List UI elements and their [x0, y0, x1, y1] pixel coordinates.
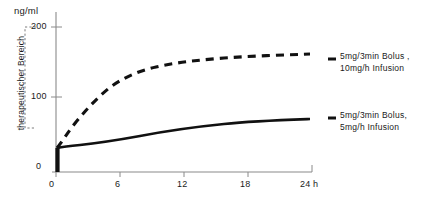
- series-label-5mg-line1: 5mg/3min Bolus,: [340, 110, 407, 122]
- x-tick-label-12: 12: [177, 180, 187, 189]
- chart-plot-area: [0, 0, 423, 199]
- series-line-5mg: [57, 119, 310, 148]
- series-label-10mg-line1: 5mg/3min Bolus ,: [340, 51, 410, 63]
- series-label-10mg-line2: 10mg/h Infusion: [340, 63, 410, 75]
- x-tick-label-18: 18: [240, 180, 250, 189]
- x-tick-label-6: 6: [115, 180, 120, 189]
- series-label-10mg: 5mg/3min Bolus , 10mg/h Infusion: [340, 51, 410, 74]
- y-tick-label-200: 200: [31, 22, 47, 31]
- y-tick-label-100: 100: [31, 92, 47, 101]
- y-axis-unit-label: ng/ml: [14, 6, 38, 16]
- series-label-5mg-line2: 5mg/h Infusion: [340, 122, 407, 134]
- series-label-5mg: 5mg/3min Bolus, 5mg/h Infusion: [340, 110, 407, 133]
- x-tick-label-0: 0: [49, 180, 54, 189]
- x-axis-end-label: 24 h: [300, 180, 318, 189]
- series-line-10mg: [57, 54, 310, 148]
- therapeutic-range-bracket: [25, 27, 36, 128]
- pharmacokinetic-chart: ng/ml therapeutischer Bereich 200 100 0 …: [0, 0, 423, 199]
- y-tick-label-0: 0: [36, 162, 41, 171]
- y-axis-title: therapeutischer Bereich: [16, 27, 26, 139]
